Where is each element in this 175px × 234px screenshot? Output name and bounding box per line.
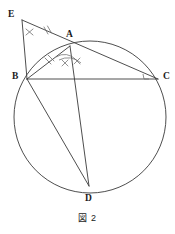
segment-EC xyxy=(22,20,158,79)
vertex-label-D: D xyxy=(85,194,92,204)
angle-arcs-A xyxy=(56,54,81,66)
geometry-figure: E A B C D 図 2 xyxy=(0,0,175,234)
vertex-label-C: C xyxy=(163,72,170,82)
vertex-label-E: E xyxy=(8,10,14,20)
figure-caption: 図 2 xyxy=(0,211,175,224)
vertex-label-B: B xyxy=(12,72,18,82)
segment-BA xyxy=(27,46,70,79)
tick-mark-BA xyxy=(45,55,54,64)
circumscribed-circle xyxy=(14,41,166,193)
vertex-label-A: A xyxy=(66,30,73,40)
angle-mark-E xyxy=(26,29,33,35)
segment-BD xyxy=(27,79,89,186)
segment-AD xyxy=(70,46,89,186)
